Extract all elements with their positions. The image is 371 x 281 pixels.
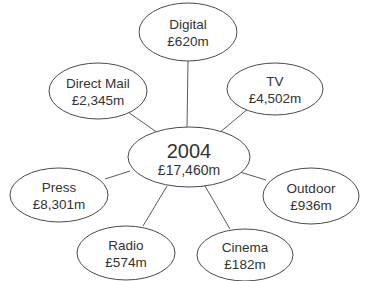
connector-outdoor bbox=[240, 172, 266, 180]
node-ellipse bbox=[49, 63, 147, 119]
node-ellipse bbox=[139, 3, 237, 61]
node-outdoor: Outdoor£936m bbox=[263, 168, 359, 224]
node-value: £936m bbox=[290, 198, 331, 213]
node-digital: Digital£620m bbox=[139, 3, 237, 61]
connector-radio bbox=[143, 186, 167, 226]
node-value: £8,301m bbox=[33, 197, 86, 212]
node-ellipse bbox=[263, 168, 359, 224]
node-ellipse bbox=[197, 229, 293, 281]
node-label: Digital bbox=[169, 17, 207, 32]
node-label: Press bbox=[42, 180, 77, 195]
connector-direct-mail bbox=[125, 110, 158, 133]
connector-cinema bbox=[205, 186, 230, 229]
node-press: Press£8,301m bbox=[10, 168, 108, 222]
node-direct-mail: Direct Mail£2,345m bbox=[49, 63, 147, 119]
node-cinema: Cinema£182m bbox=[197, 229, 293, 281]
node-label: Radio bbox=[108, 238, 143, 253]
node-label: Cinema bbox=[222, 240, 269, 255]
center-total-value: £17,460m bbox=[158, 162, 220, 178]
connector-tv bbox=[219, 108, 249, 133]
node-value: £2,345m bbox=[72, 93, 125, 108]
node-label: Direct Mail bbox=[66, 76, 130, 91]
connector-digital bbox=[187, 61, 188, 127]
center-year: 2004 bbox=[167, 140, 212, 162]
node-radio: Radio£574m bbox=[77, 226, 175, 280]
node-value: £620m bbox=[167, 34, 208, 49]
center-node: 2004 £17,460m bbox=[128, 127, 250, 187]
node-value: £574m bbox=[105, 255, 146, 270]
node-value: £182m bbox=[224, 257, 265, 272]
advertising-spend-spider-diagram: Digital£620mDirect Mail£2,345mTV£4,502mP… bbox=[0, 0, 371, 281]
node-ellipse bbox=[10, 168, 108, 222]
node-tv: TV£4,502m bbox=[227, 63, 323, 115]
connector-press bbox=[105, 171, 130, 179]
node-label: TV bbox=[266, 74, 283, 89]
node-value: £4,502m bbox=[249, 91, 302, 106]
node-label: Outdoor bbox=[287, 181, 336, 196]
node-ellipse bbox=[77, 226, 175, 280]
node-ellipse bbox=[227, 63, 323, 115]
